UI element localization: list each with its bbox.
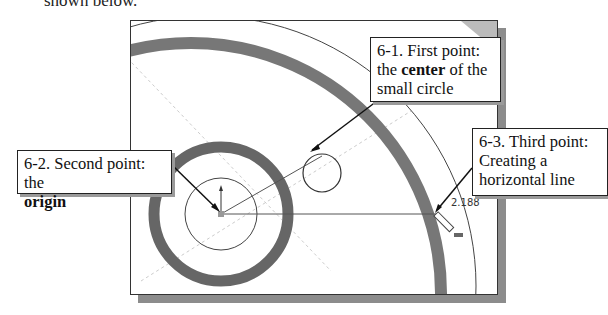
callout-bold: center <box>401 60 445 79</box>
callout-second-point: 6-2. Second point: the origin <box>17 150 172 194</box>
callout-text: Creating a <box>479 151 601 170</box>
callout-text: 6-3. Third point: <box>479 132 601 151</box>
callout-text: small circle <box>377 79 494 98</box>
callout-text: the center of the <box>377 60 494 79</box>
callout-text-post: of the <box>445 60 487 79</box>
callout-third-point: 6-3. Third point: Creating a horizontal … <box>472 128 608 196</box>
callout-text-pre: the <box>377 60 401 79</box>
callout-bold: origin <box>24 192 66 211</box>
callout-text: horizontal line <box>479 170 601 189</box>
callout-text: 6-2. Second point: the <box>24 154 165 192</box>
callout-text: 6-1. First point: <box>377 41 494 60</box>
callout-first-point: 6-1. First point: the center of the smal… <box>370 37 501 102</box>
